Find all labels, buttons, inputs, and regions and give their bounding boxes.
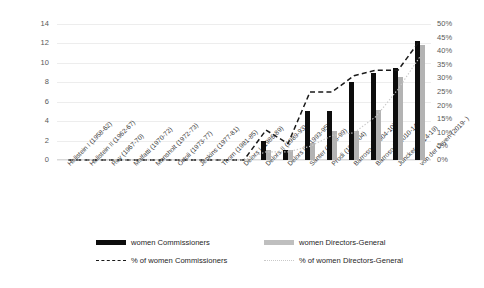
x-axis-labels: Hallstein I (1958-62)Hallstein II (1962-…	[57, 162, 431, 234]
legend-swatch-icon	[96, 260, 126, 261]
legend-swatch-icon	[264, 260, 294, 261]
y-axis-right-tick-label: 35%	[437, 61, 473, 69]
y-axis-left-tick-label: 12	[21, 39, 49, 47]
plot-area	[57, 24, 431, 160]
legend-item[interactable]: % of women Directors-General	[264, 256, 403, 265]
y-axis-left-tick-label: 4	[21, 117, 49, 125]
legend-item[interactable]: women Directors-General	[264, 238, 386, 247]
y-axis-left-tick-label: 2	[21, 137, 49, 145]
legend-label: % of women Directors-General	[299, 256, 403, 265]
y-axis-right-tick-label: 50%	[437, 20, 473, 28]
legend-item[interactable]: women Commissioners	[96, 238, 210, 247]
y-axis-right-tick-label: 40%	[437, 47, 473, 55]
y-axis-left-tick-label: 0	[21, 156, 49, 164]
chart-legend: women Commissionerswomen Directors-Gener…	[96, 238, 426, 278]
legend-label: women Commissioners	[131, 238, 210, 247]
legend-item[interactable]: % of women Commissioners	[96, 256, 227, 265]
line-series-overlay	[57, 24, 431, 160]
y-axis-left-tick-label: 10	[21, 59, 49, 67]
y-axis-right-tick-label: 25%	[437, 88, 473, 96]
y-axis-right-tick-label: 20%	[437, 102, 473, 110]
y-axis-right-tick-label: 30%	[437, 74, 473, 82]
legend-label: % of women Commissioners	[131, 256, 227, 265]
y-axis-right-tick-label: 0%	[437, 156, 473, 164]
chart-figure: 02468101214 0%5%10%15%20%25%30%35%40%45%…	[0, 0, 484, 288]
legend-label: women Directors-General	[299, 238, 386, 247]
line-series	[68, 57, 420, 160]
legend-swatch-icon	[96, 240, 126, 245]
y-axis-left-tick-label: 14	[21, 20, 49, 28]
y-axis-left-tick-label: 8	[21, 78, 49, 86]
line-series	[68, 40, 420, 160]
legend-swatch-icon	[264, 240, 294, 245]
y-axis-right-tick-label: 45%	[437, 34, 473, 42]
y-axis-left-tick-label: 6	[21, 98, 49, 106]
